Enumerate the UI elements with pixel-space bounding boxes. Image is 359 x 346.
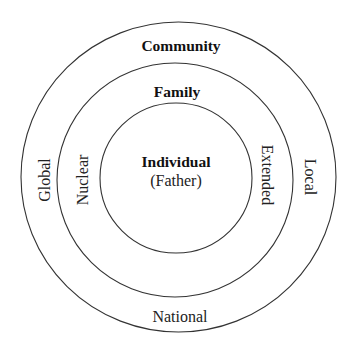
- individual-label: Individual: [142, 153, 212, 170]
- nuclear-label: Nuclear: [74, 154, 91, 205]
- concentric-circles-diagram: Community Family Individual (Father) Glo…: [0, 0, 359, 346]
- father-label: (Father): [150, 172, 202, 190]
- family-label: Family: [154, 83, 201, 100]
- extended-label: Extended: [259, 145, 276, 205]
- global-label: Global: [36, 158, 53, 202]
- local-label: Local: [302, 159, 319, 196]
- national-label: National: [152, 308, 208, 325]
- community-label: Community: [141, 37, 220, 54]
